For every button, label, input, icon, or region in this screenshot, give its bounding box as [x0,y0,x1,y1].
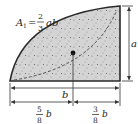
svg-text:ab: ab [46,17,58,28]
svg-text:1: 1 [23,22,27,29]
diagram-canvas: A 1 = 2 3 ab a b 5 8 b 3 8 b [0,0,138,124]
label-a: a [131,38,137,49]
svg-text:=: = [28,17,36,28]
svg-text:8: 8 [93,116,98,124]
svg-text:2: 2 [38,12,43,21]
parabolic-region [10,6,120,81]
svg-text:b: b [46,109,52,119]
svg-text:3: 3 [38,24,43,33]
svg-text:8: 8 [37,116,42,124]
svg-text:A: A [15,17,23,28]
svg-text:5: 5 [37,105,42,114]
label-five-eighths-b: 5 8 b [36,105,52,124]
label-b: b [62,89,68,100]
svg-text:b: b [102,109,108,119]
svg-text:3: 3 [93,105,98,114]
label-three-eighths-b: 3 8 b [92,105,108,124]
